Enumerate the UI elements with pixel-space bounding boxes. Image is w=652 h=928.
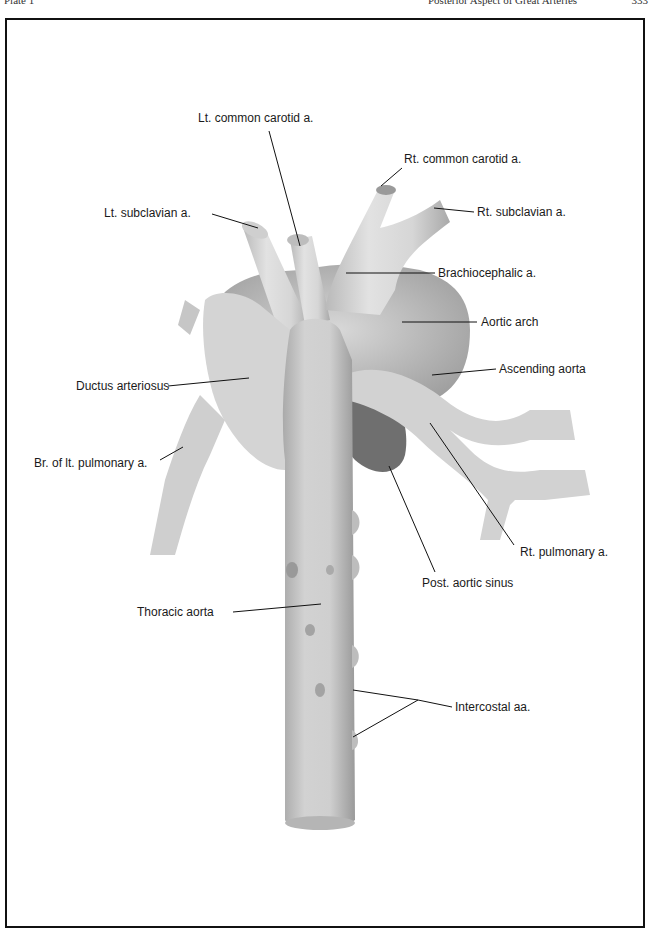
label-rt-common-carotid: Rt. common carotid a. bbox=[404, 152, 521, 166]
label-aortic-arch: Aortic arch bbox=[481, 315, 538, 329]
label-lt-common-carotid: Lt. common carotid a. bbox=[198, 111, 313, 125]
label-rt-subclavian: Rt. subclavian a. bbox=[477, 205, 566, 219]
label-ductus-arteriosus: Ductus arteriosus bbox=[76, 379, 169, 393]
lt-pulmonary-branch bbox=[150, 395, 225, 555]
label-lt-subclavian: Lt. subclavian a. bbox=[104, 206, 191, 220]
label-br-lt-pulmonary: Br. of lt. pulmonary a. bbox=[34, 456, 147, 470]
label-rt-pulmonary: Rt. pulmonary a. bbox=[520, 545, 608, 559]
label-ascending-aorta: Ascending aorta bbox=[499, 362, 586, 376]
label-brachiocephalic: Brachiocephalic a. bbox=[438, 266, 536, 280]
label-thoracic-aorta: Thoracic aorta bbox=[137, 605, 214, 619]
label-post-aortic-sinus: Post. aortic sinus bbox=[422, 576, 513, 590]
label-intercostal: Intercostal aa. bbox=[455, 700, 530, 714]
